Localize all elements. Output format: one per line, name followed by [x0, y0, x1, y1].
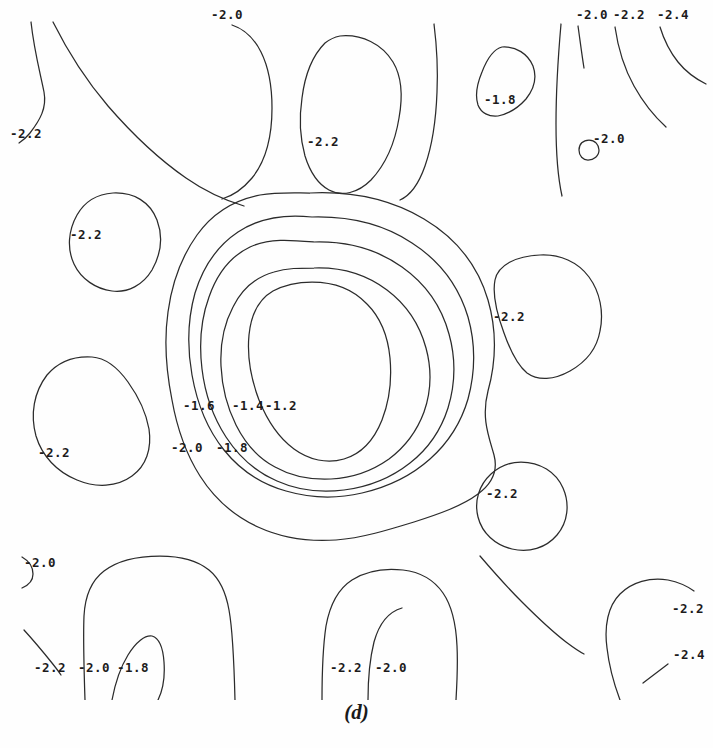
contour-path-center-level-2p0 [166, 193, 495, 541]
contour-path-center-level-1p4 [221, 268, 430, 479]
contour-path-label-2p0-topright [578, 26, 584, 68]
contour-path-top-left-edge [19, 22, 45, 143]
contour-label: -2.2 [672, 601, 704, 616]
contour-path-label-2p2-topright [615, 27, 666, 127]
contour-label: -2.2 [330, 660, 362, 675]
contour-path-bottom-mid-right [368, 608, 402, 700]
contour-label: -1.8 [117, 660, 149, 675]
contour-plot-canvas: -2.0 -2.2 -2.2 -1.8 -2.0 -2.2 -2.4 -2.0 … [0, 0, 713, 700]
contour-label: -2.0 [211, 7, 243, 22]
contour-label: -2.0 [171, 440, 203, 455]
contour-path-label-2p4-topright [660, 27, 706, 84]
contour-label: -1.8 [216, 440, 248, 455]
contour-path-top-right-curve [400, 24, 437, 200]
figure-caption: (d) [0, 700, 713, 725]
contour-path-label-2p0-top [222, 25, 272, 199]
contour-label: -2.0 [576, 7, 608, 22]
contour-path-loop-left-lower [33, 357, 149, 485]
contour-label: -2.0 [78, 660, 110, 675]
contour-label: -1.6 [183, 398, 215, 413]
contour-label: -2.2 [613, 7, 645, 22]
contour-path-bottom-mid-left [322, 569, 457, 700]
contour-label: -1.8 [484, 92, 516, 107]
contour-label: -2.2 [70, 227, 102, 242]
contour-path-right-big-open [556, 24, 562, 196]
contour-label: -1.4 [232, 398, 264, 413]
contour-path-loop-left-upper [69, 193, 160, 291]
contour-path-bottom-right-hump [606, 579, 694, 700]
contour-label: -2.2 [34, 660, 66, 675]
contour-label: -2.2 [493, 309, 525, 324]
contour-path-top-diagonal [53, 22, 244, 206]
contour-path-center-level-1p2 [248, 282, 390, 461]
contour-label: -2.2 [307, 134, 339, 149]
contour-label: -2.2 [10, 126, 42, 141]
contour-label: -2.0 [593, 131, 625, 146]
contour-label: -2.4 [673, 647, 705, 662]
contour-path-loop-right-lower [477, 462, 567, 550]
contour-label: -2.0 [375, 660, 407, 675]
contour-label: -2.0 [24, 555, 56, 570]
contour-figure: -2.0 -2.2 -2.2 -1.8 -2.0 -2.2 -2.4 -2.0 … [0, 0, 713, 748]
contour-label: -2.4 [657, 7, 689, 22]
contour-label: -2.2 [486, 486, 518, 501]
contour-path-bottom-hump-left [84, 556, 235, 700]
contour-path-bottom-right-2p4 [643, 664, 668, 683]
contour-label: -2.2 [38, 445, 70, 460]
contour-label: -1.2 [265, 398, 297, 413]
contour-path-bottom-right-diagonal [480, 556, 584, 654]
contour-path-top-center-loop [300, 36, 401, 194]
